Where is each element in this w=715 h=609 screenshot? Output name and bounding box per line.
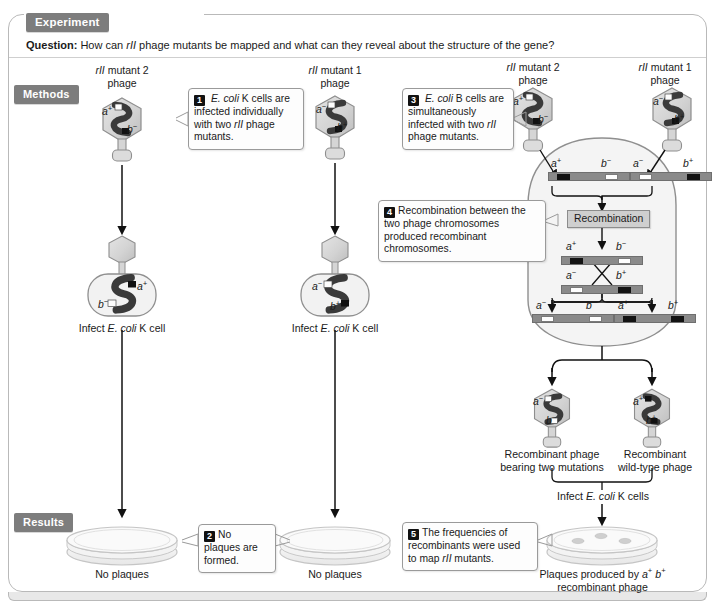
callout-step-4: 4Recombination between the two phage chr… <box>378 200 546 262</box>
rec-phage-left-allele-b: b− <box>546 415 556 426</box>
dish1-label: No plaques <box>62 568 182 581</box>
recombination-box: Recombination <box>567 210 650 228</box>
recombinant-phage-right-label: Recombinant wild-type phage <box>603 448 707 474</box>
infect-label-1: Infect E. coli K cell <box>55 322 189 335</box>
cell2-allele-b: b+ <box>330 301 340 312</box>
results-chip: Results <box>14 513 73 532</box>
cell1-allele-b: b− <box>98 299 108 310</box>
phage3-allele-b: b− <box>538 114 548 125</box>
dish2-label: No plaques <box>275 568 395 581</box>
cell2-allele-a: a− <box>312 281 322 292</box>
callout-step-2: 2No plaques are formed. <box>198 524 276 573</box>
callout-step-3: 3 E. coli B cells are simultaneously inf… <box>402 88 514 150</box>
question-prefix: Question: <box>26 39 77 51</box>
callout-step-5: 5The frequencies of recombinants were us… <box>402 522 538 571</box>
rec-phage-right-allele-b: b+ <box>646 415 656 426</box>
infect-k-cells-label: Infect E. coli K cells <box>533 490 673 503</box>
figure-root: Experiment Question: How can rII phage m… <box>0 0 715 609</box>
infect-label-2: Infect E. coli K cell <box>268 322 402 335</box>
question-line: Question: How can rII phage mutants be m… <box>26 38 686 52</box>
phage1-allele-b: b− <box>127 124 137 135</box>
cell1-allele-a: a+ <box>137 281 147 292</box>
phage4-allele-b: b+ <box>674 114 684 125</box>
experiment-frame <box>8 14 707 592</box>
recombinant-phage-left-label: Recombinant phage bearing two mutations <box>489 448 615 474</box>
phage3-title: rII mutant 2 phage <box>475 61 591 87</box>
phage4-allele-a: a− <box>653 96 663 107</box>
phage2-title: rII mutant 1 phage <box>275 64 395 90</box>
rec-phage-left-allele-a: a− <box>533 396 543 407</box>
phage1-title: rII mutant 2 phage <box>62 64 182 90</box>
question-text: How can rII phage mutants be mapped and … <box>80 39 554 51</box>
phage3-allele-a: a+ <box>513 96 523 107</box>
phage2-allele-a: a− <box>316 104 326 115</box>
rec-phage-right-allele-a: a+ <box>633 396 643 407</box>
phage4-title: rII mutant 1 phage <box>615 61 715 87</box>
experiment-chip: Experiment <box>26 13 109 32</box>
dish3-label: Plaques produced by a+ b+ recombinant ph… <box>515 568 690 594</box>
question-divider <box>9 57 706 58</box>
phage1-allele-a: a+ <box>102 106 112 117</box>
callout-step-1: 1 E. coli K cells are infected individua… <box>188 88 304 150</box>
phage2-allele-b: b+ <box>337 122 347 133</box>
